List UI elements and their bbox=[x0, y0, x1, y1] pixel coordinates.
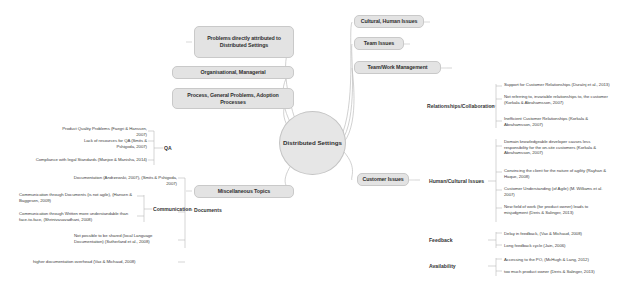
leaf-text: Communication through Written more under… bbox=[19, 211, 128, 222]
leaf-text: Customer Understanding (of Agile) (M. Wi… bbox=[504, 186, 602, 197]
leaf-text: Lack of resources for QA (Smits & Pshigo… bbox=[84, 138, 147, 149]
category-label-documents[interactable]: Documents bbox=[194, 207, 234, 213]
branch-node-label: Customer Issues bbox=[362, 176, 403, 183]
category-label-relationships-collaboration[interactable]: Relationships/Collaboration bbox=[427, 103, 495, 109]
branch-node-label: Team/Work Management bbox=[368, 64, 428, 71]
branch-node-label: Problems directly attributed to Distribu… bbox=[199, 35, 289, 48]
leaf-item: Customer Understanding (of Agile) (M. Wi… bbox=[504, 186, 612, 197]
leaf-text: Communication through Documents (is not … bbox=[19, 192, 132, 203]
leaf-item: Long feedback cycle (Jain, 2006) bbox=[504, 243, 612, 249]
leaf-item: Documentation (Andrzewski, 2007), (Smits… bbox=[63, 175, 177, 186]
leaf-text: Domain knowledgeable developer causes le… bbox=[504, 139, 596, 155]
category-label-human-cultural-issues[interactable]: Human/Cultural Issues bbox=[429, 178, 493, 184]
category-label-communication[interactable]: Communication bbox=[153, 206, 195, 212]
category-label-feedback[interactable]: Feedback bbox=[429, 237, 469, 243]
leaf-item: Accessing to the PO, (McHugh & Lang, 201… bbox=[504, 257, 612, 263]
central-node[interactable]: Distributed Settings bbox=[279, 111, 346, 175]
branch-node-process-general-problems[interactable]: Process, General Problems, Adoption Proc… bbox=[172, 88, 294, 109]
leaf-item: Communication through Documents (is not … bbox=[19, 192, 136, 203]
category-text: QA bbox=[164, 145, 172, 151]
branch-node-label: Cultural, Human Issues bbox=[361, 18, 418, 25]
branch-node-customer-issues[interactable]: Customer Issues bbox=[357, 173, 409, 186]
leaf-text: Not referring to, invariable relationshi… bbox=[504, 94, 608, 105]
leaf-item: New field of work (for product owner) le… bbox=[504, 204, 612, 215]
leaf-item: Communication through Written more under… bbox=[19, 211, 136, 222]
leaf-item: Inefficient Customer Relationships (Kork… bbox=[504, 116, 612, 127]
leaf-text: Support for Customer Relationships (Dura… bbox=[504, 82, 610, 87]
leaf-text: Accessing to the PO, (McHugh & Lang, 201… bbox=[504, 257, 589, 262]
leaf-item: Lack of resources for QA (Smits & Pshigo… bbox=[70, 138, 147, 149]
branch-node-organisational-managerial[interactable]: Organisational, Managerial bbox=[172, 66, 294, 79]
branch-node-label: Organisational, Managerial bbox=[200, 69, 265, 76]
category-text: Availability bbox=[429, 263, 456, 269]
leaf-text: Documentation (Andrzewski, 2007), (Smits… bbox=[74, 175, 177, 186]
central-node-label: Distributed Settings bbox=[283, 139, 342, 147]
leaf-item: Compliance with legal Standards (Manjoe … bbox=[30, 157, 147, 163]
branch-node-cultural-human-issues[interactable]: Cultural, Human Issues bbox=[354, 15, 424, 28]
branch-node-label: Team Issues bbox=[364, 40, 394, 47]
leaf-text: Delay in feedback, (Vax & Michaud, 2008) bbox=[504, 231, 582, 236]
leaf-text: Long feedback cycle (Jain, 2006) bbox=[504, 243, 565, 248]
category-text: Relationships/Collaboration bbox=[427, 103, 495, 109]
mind-map-canvas: Distributed Settings Problems directly a… bbox=[0, 0, 617, 291]
category-text: Feedback bbox=[429, 237, 453, 243]
leaf-item: Support for Customer Relationships (Dura… bbox=[504, 82, 612, 88]
leaf-text: New field of work (for product owner) le… bbox=[504, 204, 588, 215]
leaf-text: Inefficient Customer Relationships (Kork… bbox=[504, 116, 588, 127]
category-text: Communication bbox=[153, 206, 192, 212]
category-label-availability[interactable]: Availability bbox=[429, 263, 473, 269]
category-label-qa[interactable]: QA bbox=[164, 145, 184, 151]
leaf-text: Compliance with legal Standards (Manjoe … bbox=[36, 157, 147, 162]
branch-node-miscellaneous-topics[interactable]: Miscellaneous Topics bbox=[194, 185, 294, 198]
leaf-text: Product Quality Problems (Faegri & Hanss… bbox=[62, 126, 147, 137]
leaf-item: Product Quality Problems (Faegri & Hanss… bbox=[57, 126, 147, 137]
leaf-item: Not referring to, invariable relationshi… bbox=[504, 94, 612, 105]
branch-node-problems-distributed[interactable]: Problems directly attributed to Distribu… bbox=[194, 26, 294, 58]
leaf-item: Delay in feedback, (Vax & Michaud, 2008) bbox=[504, 231, 612, 237]
leaf-item: Domain knowledgeable developer causes le… bbox=[504, 139, 612, 156]
branch-node-team-issues[interactable]: Team Issues bbox=[354, 37, 404, 50]
leaf-item: Convincing the client for the nature of … bbox=[504, 168, 612, 179]
leaf-item: Not possible to be shared (local Languag… bbox=[74, 233, 177, 244]
category-text: Documents bbox=[194, 207, 222, 213]
leaf-text: Convincing the client for the nature of … bbox=[504, 168, 606, 179]
leaf-item: too much product owner (Deris & Salinger… bbox=[504, 269, 612, 275]
category-text: Human/Cultural Issues bbox=[429, 178, 484, 184]
branch-node-label: Miscellaneous Topics bbox=[218, 188, 270, 195]
leaf-text: higher documentation overhead (Vax & Mic… bbox=[33, 259, 135, 264]
branch-node-team-work-management[interactable]: Team/Work Management bbox=[354, 61, 441, 74]
branch-node-label: Process, General Problems, Adoption Proc… bbox=[177, 92, 289, 105]
leaf-item: higher documentation overhead (Vax & Mic… bbox=[33, 259, 177, 265]
leaf-text: Not possible to be shared (local Languag… bbox=[74, 233, 152, 244]
leaf-text: too much product owner (Deris & Salinger… bbox=[504, 269, 595, 274]
